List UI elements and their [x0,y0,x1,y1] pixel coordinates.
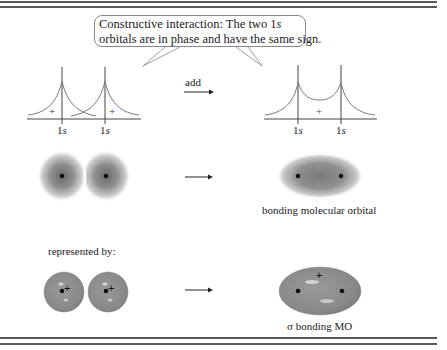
representation-arrow [185,288,213,293]
add-label: add [185,76,201,88]
represented-by-label: represented by: [48,245,116,257]
right-1s-label-b: 1s [336,124,346,136]
callout-italic-s: s [277,17,282,31]
label-italic: s [63,124,67,136]
callout-line-2: orbitals are in phase and have the same … [99,32,305,47]
add-arrow [184,90,214,95]
label-italic: s [106,124,110,136]
bonding-mo-cloud [276,153,364,199]
plus-sign: + [108,282,114,294]
bottom-rule-1 [0,337,437,339]
callout-bubble: Constructive interaction: The two 1s orb… [94,15,306,47]
plus-sign: + [109,105,115,117]
plus-sign: + [64,282,70,294]
callout-line-1: Constructive interaction: The two 1s [99,17,305,32]
atomic-orbital-spheres [44,272,128,312]
right-1s-label-a: 1s [293,124,303,136]
diagram-graphics: + + + + [0,0,447,350]
bottom-rule-2 [0,343,437,345]
bonding-mo-caption: bonding molecular orbital [262,204,376,216]
sigma-bonding-mo-caption: σ bonding MO [287,320,352,332]
atomic-orbital-clouds [37,150,131,202]
left-1s-label-a: 1s [57,124,67,136]
left-1s-label-b: 1s [100,124,110,136]
plus-sign: + [316,269,322,281]
plus-sign: + [316,105,322,117]
density-arrow [185,175,213,180]
callout-line-1-text: Constructive interaction: The two 1 [99,17,277,31]
label-italic: s [342,124,346,136]
label-italic: s [299,124,303,136]
left-wavefunction-plot [27,67,141,124]
caption-text: bonding MO [293,320,352,332]
callout-tails [143,47,262,66]
plus-sign: + [49,105,55,117]
